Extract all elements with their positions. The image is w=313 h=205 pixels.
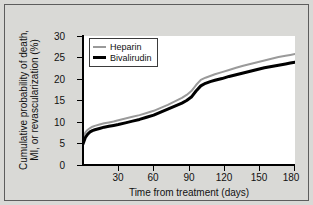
y-tick-label-30: 30	[37, 32, 65, 42]
x-tick-label-120: 120	[209, 173, 239, 183]
x-tick-label-150: 150	[244, 173, 274, 183]
x-tick-mark-30	[118, 166, 119, 171]
x-tick-mark-120	[224, 166, 225, 171]
y-tick-label-20: 20	[37, 75, 65, 85]
x-tick-label-180: 180	[276, 173, 306, 183]
y-axis-label-line1: Cumulative probability of death,	[18, 25, 29, 175]
y-tick-label-25: 25	[37, 53, 65, 63]
x-tick-label-90: 90	[174, 173, 204, 183]
y-tick-label-0: 0	[37, 161, 65, 171]
legend-item-heparin: Heparin	[93, 41, 152, 52]
y-axis-line	[82, 35, 84, 166]
figure-container: Cumulative probability of death, MI, or …	[0, 0, 313, 205]
y-tick-label-15: 15	[37, 96, 65, 106]
x-tick-label-60: 60	[138, 173, 168, 183]
x-tick-mark-90	[189, 166, 190, 171]
legend-swatch-bivalirudin	[93, 56, 106, 59]
legend-label-bivalirudin: Bivalirudin	[110, 53, 152, 63]
y-tick-label-5: 5	[37, 139, 65, 149]
legend-label-heparin: Heparin	[110, 42, 142, 52]
y-tick-label-10: 10	[37, 118, 65, 128]
x-tick-mark-60	[153, 166, 154, 171]
x-tick-mark-180	[294, 166, 295, 171]
x-tick-mark-150	[259, 166, 260, 171]
legend: Heparin Bivalirudin	[89, 38, 158, 67]
x-axis-label: Time from treatment (days)	[83, 187, 295, 198]
legend-swatch-heparin	[93, 46, 106, 48]
x-tick-label-30: 30	[103, 173, 133, 183]
legend-item-bivalirudin: Bivalirudin	[93, 52, 152, 63]
figure-frame: Cumulative probability of death, MI, or …	[4, 4, 309, 201]
line-bivalirudin	[83, 62, 295, 144]
